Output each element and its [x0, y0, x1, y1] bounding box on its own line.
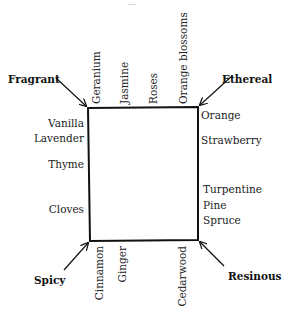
- left-label-thyme: Thyme: [48, 158, 84, 170]
- top-label-geranium: Geranium: [90, 51, 102, 104]
- left-label-cloves: Cloves: [49, 203, 84, 215]
- corner-label-fragrant: Fragrant: [8, 73, 60, 85]
- odor-prism-diagram: ... Fragrant Ethereal Spicy Resinous Ger…: [0, 0, 282, 317]
- corner-label-resinous: Resinous: [228, 270, 282, 282]
- bottom-label-cinnamon: Cinnamon: [93, 246, 105, 300]
- resinous-arrow: [200, 242, 224, 266]
- odor-square: [88, 107, 198, 241]
- bottom-label-ginger: Ginger: [116, 245, 128, 282]
- right-label-turpentine: Turpentine: [203, 183, 262, 195]
- corner-label-ethereal: Ethereal: [222, 73, 272, 85]
- top-label-orange-blossoms: Orange blossoms: [177, 12, 189, 104]
- right-label-orange: Orange: [201, 109, 241, 121]
- left-label-vanilla: Vanilla: [47, 117, 84, 129]
- corner-label-spicy: Spicy: [34, 274, 66, 286]
- right-label-strawberry: Strawberry: [201, 134, 262, 146]
- right-label-spruce: Spruce: [203, 214, 241, 226]
- top-label-jasmine: Jasmine: [118, 62, 130, 105]
- top-label-roses: Roses: [147, 73, 159, 104]
- right-label-pine: Pine: [203, 199, 226, 211]
- left-label-lavender: Lavender: [34, 132, 85, 144]
- bottom-label-cedarwood: Cedarwood: [176, 246, 188, 307]
- spicy-arrow: [64, 243, 88, 270]
- fragrant-arrow: [56, 78, 86, 106]
- cutoff-caption: ...: [128, 0, 137, 7]
